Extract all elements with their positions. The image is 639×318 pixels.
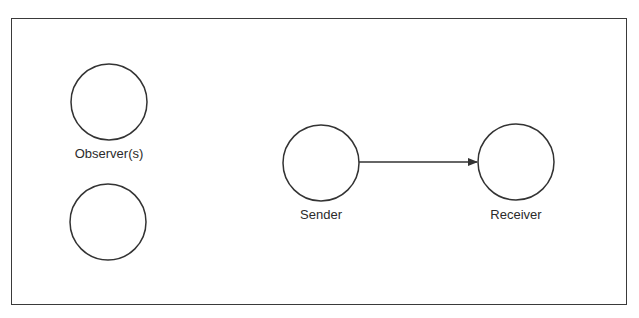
- receiver-label: Receiver: [490, 207, 541, 222]
- observer-node-1: [71, 64, 147, 140]
- observer-label: Observer(s): [75, 146, 144, 161]
- observer-node-2: [70, 184, 146, 260]
- sender-label: Sender: [300, 207, 342, 222]
- receiver-node: [478, 124, 554, 200]
- sender-node: [283, 125, 359, 201]
